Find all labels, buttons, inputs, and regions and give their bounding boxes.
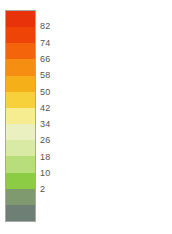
- colorbar-tick-label: 10: [40, 168, 70, 178]
- colorbar-band: [6, 205, 35, 221]
- colorbar-tick-label: 82: [40, 21, 70, 31]
- colorbar-tick-label: 26: [40, 135, 70, 145]
- colorbar-band: [6, 140, 35, 156]
- colorbar-band: [6, 189, 35, 205]
- colorbar-band: [6, 173, 35, 189]
- colorbar-tick-label: 2: [40, 184, 70, 194]
- colorbar-band: [6, 43, 35, 59]
- colorbar-tick-label-group: 82 74 66 58 50 42 34 26 18 10 2: [40, 10, 80, 222]
- colorbar-ramp: [5, 10, 36, 222]
- colorbar-band: [6, 92, 35, 108]
- colorbar-band: [6, 59, 35, 75]
- colorbar-tick-label: 50: [40, 87, 70, 97]
- colorbar-legend: 82 74 66 58 50 42 34 26 18 10 2: [0, 0, 172, 234]
- colorbar-tick-label: 34: [40, 119, 70, 129]
- colorbar-band: [6, 11, 35, 27]
- colorbar-band: [6, 124, 35, 140]
- colorbar-tick-label: 42: [40, 103, 70, 113]
- colorbar-band: [6, 76, 35, 92]
- colorbar-tick-label: 18: [40, 152, 70, 162]
- colorbar-band: [6, 108, 35, 124]
- colorbar-tick-label: 66: [40, 54, 70, 64]
- colorbar-band: [6, 27, 35, 43]
- colorbar-tick-label: 58: [40, 70, 70, 80]
- colorbar-band: [6, 156, 35, 172]
- colorbar-tick-label: 74: [40, 38, 70, 48]
